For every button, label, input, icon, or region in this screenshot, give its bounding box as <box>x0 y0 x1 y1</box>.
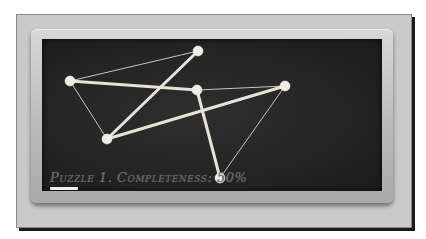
chalkboard-frame: Puzzle 1. Completeness: 50% <box>31 29 393 203</box>
status-caption: Puzzle 1. Completeness: 50% <box>50 170 247 185</box>
edge-D-F[interactable] <box>220 86 285 178</box>
node-A[interactable] <box>65 76 75 86</box>
puzzle-graph[interactable] <box>42 39 382 191</box>
edge-A-E[interactable] <box>70 81 107 139</box>
chalkboard[interactable]: Puzzle 1. Completeness: 50% <box>42 39 382 191</box>
node-B[interactable] <box>193 46 203 56</box>
game-panel: Puzzle 1. Completeness: 50% <box>16 14 412 228</box>
node-E[interactable] <box>102 134 112 144</box>
edge-A-C[interactable] <box>70 81 197 90</box>
edge-C-F[interactable] <box>197 90 220 178</box>
edge-A-B[interactable] <box>70 51 198 81</box>
node-D[interactable] <box>280 81 290 91</box>
chalk-stick-icon <box>50 187 78 190</box>
node-C[interactable] <box>192 85 202 95</box>
